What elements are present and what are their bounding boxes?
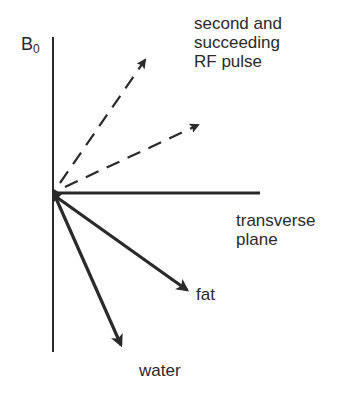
transverse-label-line-2: plane <box>236 230 315 249</box>
transverse-label-line-1: transverse <box>236 211 315 230</box>
rf-vector-2-arrow <box>65 125 198 187</box>
b0-label: B0 <box>21 35 40 59</box>
rf-pulse-label: second and succeeding RF pulse <box>194 14 282 71</box>
magnetization-diagram <box>0 0 353 393</box>
fat-label: fat <box>196 285 215 304</box>
transverse-plane-label: transverse plane <box>236 211 315 249</box>
rf-label-line-3: RF pulse <box>194 52 282 71</box>
rf-label-line-1: second and <box>194 14 282 33</box>
rf-vector-1-arrow <box>60 60 145 183</box>
water-label: water <box>139 361 181 380</box>
rf-label-line-2: succeeding <box>194 33 282 52</box>
